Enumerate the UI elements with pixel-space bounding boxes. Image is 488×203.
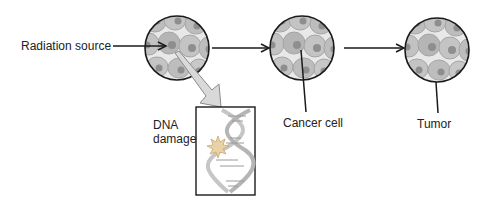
- dna-damage-label-line2: damage: [153, 132, 196, 146]
- flow-arrow-1: [212, 44, 269, 52]
- normal-tissue-circle: [137, 8, 217, 88]
- diagram-canvas: [0, 0, 488, 203]
- tumor-label: Tumor: [417, 117, 451, 131]
- cancer-cell-label: Cancer cell: [283, 116, 343, 130]
- cancer-cell-circle: [262, 8, 342, 88]
- flow-arrow-2: [344, 44, 404, 52]
- tumor-circle: [397, 10, 477, 90]
- radiation-source-label: Radiation source: [21, 39, 111, 53]
- dna-box: [196, 107, 255, 195]
- dna-damage-label-line1: DNA: [153, 118, 178, 132]
- tumor-pointer: [436, 82, 438, 113]
- cancer-development-diagram: Radiation source DNA damage Cancer cell …: [0, 0, 488, 203]
